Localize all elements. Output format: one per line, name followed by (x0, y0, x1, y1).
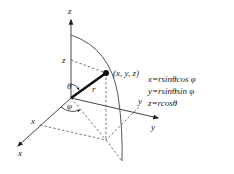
point-label: (x, y, z) (113, 68, 139, 78)
z-axis-label: z (67, 6, 72, 16)
y-axis (71, 98, 158, 118)
x-mark-label: x (30, 116, 35, 126)
y-mark-label: y (137, 96, 142, 106)
theta-arc (71, 84, 79, 90)
arc-bottom-line (106, 140, 122, 161)
radius-label: r (92, 84, 96, 94)
theta-label: θ (67, 81, 72, 91)
z-projection-line (71, 60, 106, 73)
z-mark-label: z (61, 55, 66, 65)
equation-x: x=rsinθcos φ (148, 74, 196, 85)
xy-projection-line (71, 98, 106, 140)
equation-z: z=rcosθ (148, 98, 177, 109)
sphere-arc (71, 35, 122, 161)
radius-vector (71, 73, 106, 98)
point-marker (103, 70, 109, 76)
x-mark-line (40, 125, 106, 140)
y-axis-label: y (150, 122, 155, 132)
x-axis-label: x (17, 148, 22, 158)
x-axis (18, 98, 71, 146)
equation-y: y=rsinθsin φ (148, 86, 194, 97)
y-mark-line (106, 107, 139, 140)
spherical-coordinates-diagram: z x y z x y (x, y, z) r θ φ (0, 0, 234, 174)
phi-label: φ (67, 101, 72, 111)
